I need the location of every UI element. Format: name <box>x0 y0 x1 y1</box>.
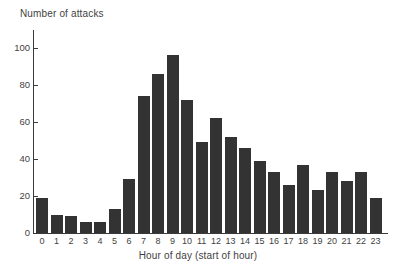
plot-area: 020406080100 012345678910111213141516171… <box>33 30 391 234</box>
x-tick-label: 7 <box>137 236 151 246</box>
bar-rect <box>210 118 222 233</box>
y-tick-mark <box>34 233 38 234</box>
bar-rect <box>370 198 382 233</box>
bar-rect <box>341 181 353 233</box>
bar-rect <box>51 215 63 234</box>
x-tick-label: 4 <box>93 236 107 246</box>
bar-rect <box>297 165 309 233</box>
x-tick-label: 19 <box>311 236 325 246</box>
x-tick-label: 1 <box>50 236 64 246</box>
bar-chart-figure: Number of attacks 020406080100 012345678… <box>0 0 396 278</box>
x-tick-label: 15 <box>253 236 267 246</box>
bar-rect <box>181 100 193 233</box>
y-tick-label: 0 <box>25 227 30 238</box>
bar-rect <box>109 209 121 233</box>
bar-rect <box>80 222 92 233</box>
y-tick-label: 100 <box>14 42 30 53</box>
bar-rect <box>152 74 164 233</box>
y-tick-label: 60 <box>19 116 30 127</box>
x-tick-label: 14 <box>238 236 252 246</box>
x-tick-label: 10 <box>180 236 194 246</box>
bar-rect <box>123 179 135 233</box>
bar-series <box>36 30 388 233</box>
x-tick-label: 21 <box>340 236 354 246</box>
bar-rect <box>225 137 237 233</box>
bar-rect <box>254 161 266 233</box>
bar-rect <box>268 172 280 233</box>
y-axis-title: Number of attacks <box>20 8 104 19</box>
bar-rect <box>355 172 367 233</box>
x-tick-label: 22 <box>354 236 368 246</box>
bar-rect <box>36 198 48 233</box>
x-tick-label: 0 <box>35 236 49 246</box>
x-tick-label: 5 <box>108 236 122 246</box>
bar-rect <box>312 190 324 233</box>
x-tick-label: 18 <box>296 236 310 246</box>
bar-rect <box>239 148 251 233</box>
bar-rect <box>283 185 295 233</box>
x-tick-label: 17 <box>282 236 296 246</box>
bar-rect <box>138 96 150 233</box>
x-tick-label: 9 <box>166 236 180 246</box>
bar-rect <box>94 222 106 233</box>
y-tick-label: 20 <box>19 190 30 201</box>
x-axis-line <box>33 233 388 234</box>
x-tick-label: 11 <box>195 236 209 246</box>
y-tick-label: 40 <box>19 153 30 164</box>
x-axis-title: Hour of day (start of hour) <box>0 250 396 261</box>
x-tick-label: 12 <box>209 236 223 246</box>
x-tick-label: 13 <box>224 236 238 246</box>
bar-rect <box>196 142 208 233</box>
bar-rect <box>326 172 338 233</box>
x-tick-label: 16 <box>267 236 281 246</box>
y-tick-label: 80 <box>19 79 30 90</box>
x-tick-label: 6 <box>122 236 136 246</box>
x-tick-label: 8 <box>151 236 165 246</box>
x-tick-label: 23 <box>369 236 383 246</box>
y-axis-line <box>33 30 34 234</box>
x-tick-label: 3 <box>79 236 93 246</box>
x-tick-label: 2 <box>64 236 78 246</box>
bar-rect <box>167 55 179 233</box>
x-tick-label: 20 <box>325 236 339 246</box>
bar-rect <box>65 216 77 233</box>
